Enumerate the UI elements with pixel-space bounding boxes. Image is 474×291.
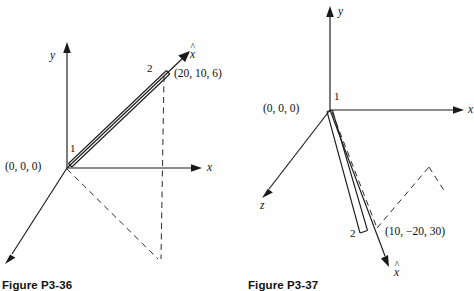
caption-figure-p3-36: Figure P3-36	[2, 279, 72, 291]
y-axis-label-left: y	[50, 50, 55, 62]
figure-p3-36-drawing	[0, 0, 237, 291]
z-axis-label-right: z	[260, 200, 264, 212]
x-axis-label-left: x	[207, 162, 212, 174]
z-axis-right	[262, 110, 330, 198]
node-2-label-left: 2	[147, 63, 153, 74]
origin-coordinate-label-left: (0, 0, 0)	[5, 161, 41, 173]
y-axis-right	[326, 6, 334, 110]
node-2-coordinate-label-right: (10, −20, 30)	[385, 226, 445, 238]
x-hat-axis-left	[67, 51, 190, 168]
node-2-coordinate-label-left: (20, 10, 6)	[174, 68, 222, 80]
figure-panel-p3-36: y x ^x (0, 0, 0) 1 2 (20, 10, 6)	[0, 0, 237, 291]
figure-page: y x ^x (0, 0, 0) 1 2 (20, 10, 6)	[0, 0, 474, 291]
y-axis-label-right: y	[338, 6, 343, 18]
figure-panel-p3-37: y x z ^x (0, 0, 0) 1 2 (10, −20, 30)	[237, 0, 474, 291]
projection-dashed-right	[332, 112, 445, 228]
node-1-label-left: 1	[70, 143, 76, 154]
x-hat-axis-label-right: ^x	[394, 266, 399, 278]
beam-element-right	[327, 111, 368, 234]
x-axis-right	[330, 106, 464, 114]
z-axis-left	[5, 168, 67, 264]
x-hat-axis-label-left: ^x	[190, 48, 195, 60]
caption-figure-p3-37: Figure P3-37	[248, 279, 318, 291]
hat-accent-left: ^	[191, 42, 196, 52]
x-axis-left	[67, 164, 202, 172]
hat-accent-right: ^	[395, 260, 400, 270]
figure-p3-37-drawing	[237, 0, 474, 291]
origin-coordinate-label-right: (0, 0, 0)	[263, 103, 299, 115]
node-1-label-right: 1	[334, 91, 340, 102]
x-axis-label-right: x	[468, 104, 473, 116]
node-2-label-right: 2	[350, 228, 356, 239]
